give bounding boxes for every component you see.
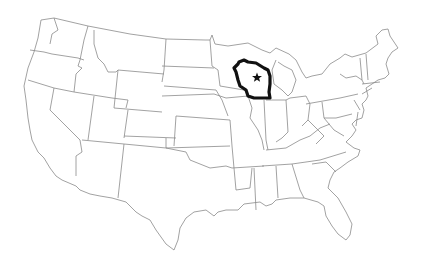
us-map: United States outline map Wisconsin — [0, 0, 424, 273]
us-map-svg — [0, 0, 424, 273]
